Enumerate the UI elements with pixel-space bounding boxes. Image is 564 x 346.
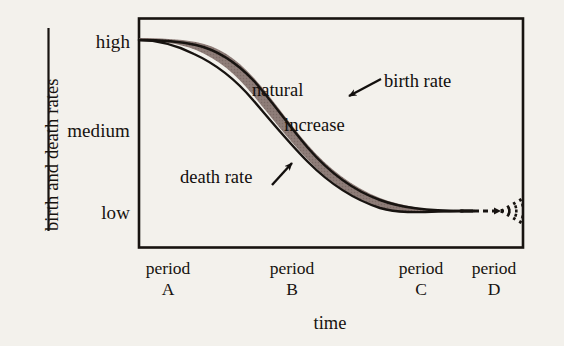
period-d-letter: D <box>454 279 534 300</box>
yaxis-tick-low: low <box>64 203 130 222</box>
xaxis-period-c: period C <box>381 258 461 301</box>
period-b-letter: B <box>252 279 332 300</box>
birth-rate-leader-arrow <box>349 79 381 96</box>
xaxis-period-d: period D <box>454 258 534 301</box>
projection-wedge <box>494 208 501 215</box>
yaxis-tick-high: high <box>64 32 130 51</box>
natural-increase-label-line1: natural <box>252 81 303 100</box>
natural-increase-label-line2: increase <box>284 116 345 135</box>
xaxis-title: time <box>290 314 370 333</box>
death-rate-leader-arrow <box>272 163 292 185</box>
birth-rate-label: birth rate <box>384 72 451 91</box>
projection-fan <box>501 199 522 223</box>
period-a-word: period <box>128 258 208 279</box>
period-b-word: period <box>252 258 332 279</box>
yaxis-tick-medium: medium <box>52 121 130 140</box>
period-a-letter: A <box>128 279 208 300</box>
death-rate-label: death rate <box>180 168 252 187</box>
demographic-transition-figure: birth and death rates high medium low na… <box>0 0 564 346</box>
xaxis-period-a: period A <box>128 258 208 301</box>
period-d-word: period <box>454 258 534 279</box>
period-c-letter: C <box>381 279 461 300</box>
xaxis-period-b: period B <box>252 258 332 301</box>
period-c-word: period <box>381 258 461 279</box>
yaxis-title: birth and death rates <box>42 78 63 231</box>
